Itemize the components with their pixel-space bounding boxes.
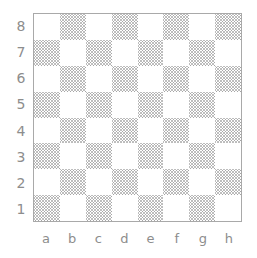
square-a6[interactable]	[34, 66, 60, 92]
square-c4[interactable]	[86, 118, 112, 144]
square-e4[interactable]	[138, 118, 164, 144]
square-e7[interactable]	[138, 40, 164, 66]
square-f2[interactable]	[163, 169, 189, 195]
square-h4[interactable]	[215, 118, 241, 144]
rank-label-column: 8 7 6 5 4 3 2 1	[13, 13, 29, 222]
square-c1[interactable]	[86, 195, 112, 221]
square-d5[interactable]	[112, 92, 138, 118]
square-e8[interactable]	[138, 14, 164, 40]
square-d4[interactable]	[112, 118, 138, 144]
file-label-f: f	[164, 228, 190, 248]
file-label-d: d	[111, 228, 137, 248]
rank-label-6: 6	[13, 65, 29, 91]
file-label-e: e	[138, 228, 164, 248]
square-f3[interactable]	[163, 143, 189, 169]
square-d3[interactable]	[112, 143, 138, 169]
square-g4[interactable]	[189, 118, 215, 144]
square-h8[interactable]	[215, 14, 241, 40]
square-b7[interactable]	[60, 40, 86, 66]
square-d6[interactable]	[112, 66, 138, 92]
square-d8[interactable]	[112, 14, 138, 40]
square-b2[interactable]	[60, 169, 86, 195]
square-a2[interactable]	[34, 169, 60, 195]
file-label-c: c	[85, 228, 111, 248]
square-b4[interactable]	[60, 118, 86, 144]
square-c8[interactable]	[86, 14, 112, 40]
square-b6[interactable]	[60, 66, 86, 92]
square-h1[interactable]	[215, 195, 241, 221]
file-label-row: a b c d e f g h	[33, 228, 242, 248]
square-g5[interactable]	[189, 92, 215, 118]
square-g8[interactable]	[189, 14, 215, 40]
square-c2[interactable]	[86, 169, 112, 195]
square-f6[interactable]	[163, 66, 189, 92]
square-e6[interactable]	[138, 66, 164, 92]
file-label-g: g	[190, 228, 216, 248]
square-b5[interactable]	[60, 92, 86, 118]
square-f7[interactable]	[163, 40, 189, 66]
file-label-a: a	[33, 228, 59, 248]
rank-label-2: 2	[13, 170, 29, 196]
rank-label-5: 5	[13, 91, 29, 117]
square-c3[interactable]	[86, 143, 112, 169]
square-a1[interactable]	[34, 195, 60, 221]
square-h7[interactable]	[215, 40, 241, 66]
square-c7[interactable]	[86, 40, 112, 66]
square-c5[interactable]	[86, 92, 112, 118]
square-e2[interactable]	[138, 169, 164, 195]
square-d2[interactable]	[112, 169, 138, 195]
square-c6[interactable]	[86, 66, 112, 92]
rank-label-4: 4	[13, 118, 29, 144]
square-f1[interactable]	[163, 195, 189, 221]
chessboard-grid	[33, 13, 242, 222]
chessboard-figure: 8 7 6 5 4 3 2 1	[0, 0, 257, 258]
square-h2[interactable]	[215, 169, 241, 195]
square-d7[interactable]	[112, 40, 138, 66]
square-b1[interactable]	[60, 195, 86, 221]
square-f8[interactable]	[163, 14, 189, 40]
square-b3[interactable]	[60, 143, 86, 169]
square-g1[interactable]	[189, 195, 215, 221]
square-g3[interactable]	[189, 143, 215, 169]
square-a3[interactable]	[34, 143, 60, 169]
rank-label-1: 1	[13, 196, 29, 222]
square-h5[interactable]	[215, 92, 241, 118]
square-h6[interactable]	[215, 66, 241, 92]
square-a7[interactable]	[34, 40, 60, 66]
square-d1[interactable]	[112, 195, 138, 221]
square-a8[interactable]	[34, 14, 60, 40]
square-g7[interactable]	[189, 40, 215, 66]
square-a5[interactable]	[34, 92, 60, 118]
rank-label-7: 7	[13, 39, 29, 65]
square-a4[interactable]	[34, 118, 60, 144]
file-label-h: h	[216, 228, 242, 248]
file-label-b: b	[59, 228, 85, 248]
square-e5[interactable]	[138, 92, 164, 118]
square-e1[interactable]	[138, 195, 164, 221]
square-b8[interactable]	[60, 14, 86, 40]
rank-label-3: 3	[13, 144, 29, 170]
square-g2[interactable]	[189, 169, 215, 195]
square-g6[interactable]	[189, 66, 215, 92]
square-e3[interactable]	[138, 143, 164, 169]
square-f4[interactable]	[163, 118, 189, 144]
square-h3[interactable]	[215, 143, 241, 169]
square-f5[interactable]	[163, 92, 189, 118]
rank-label-8: 8	[13, 13, 29, 39]
